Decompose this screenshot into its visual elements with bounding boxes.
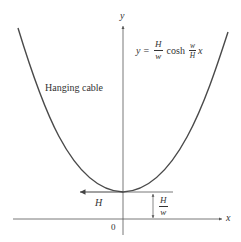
coefficient-fraction: H w <box>154 40 163 61</box>
catenary-equation: y = H w cosh w H x <box>136 40 202 61</box>
diagram-canvas <box>0 0 241 242</box>
coef-denominator: w <box>155 51 161 61</box>
curve-label: Hanging cable <box>45 82 103 93</box>
origin-label: 0 <box>111 222 116 232</box>
arg-denominator: H <box>190 51 195 60</box>
argument-fraction: w H <box>189 42 196 60</box>
x-axis-label: x <box>226 212 230 223</box>
height-denominator: w <box>160 207 166 217</box>
tension-label: H <box>95 197 102 208</box>
height-marker-fraction: H w <box>159 196 168 217</box>
equation-function: cosh <box>167 45 185 56</box>
arg-numerator: w <box>189 42 196 52</box>
equation-variable: x <box>198 45 202 56</box>
height-numerator: H <box>159 196 168 207</box>
equation-lhs: y <box>136 45 140 56</box>
equation-equals: = <box>143 45 149 56</box>
y-axis-label: y <box>120 10 124 21</box>
coef-numerator: H <box>154 40 163 51</box>
